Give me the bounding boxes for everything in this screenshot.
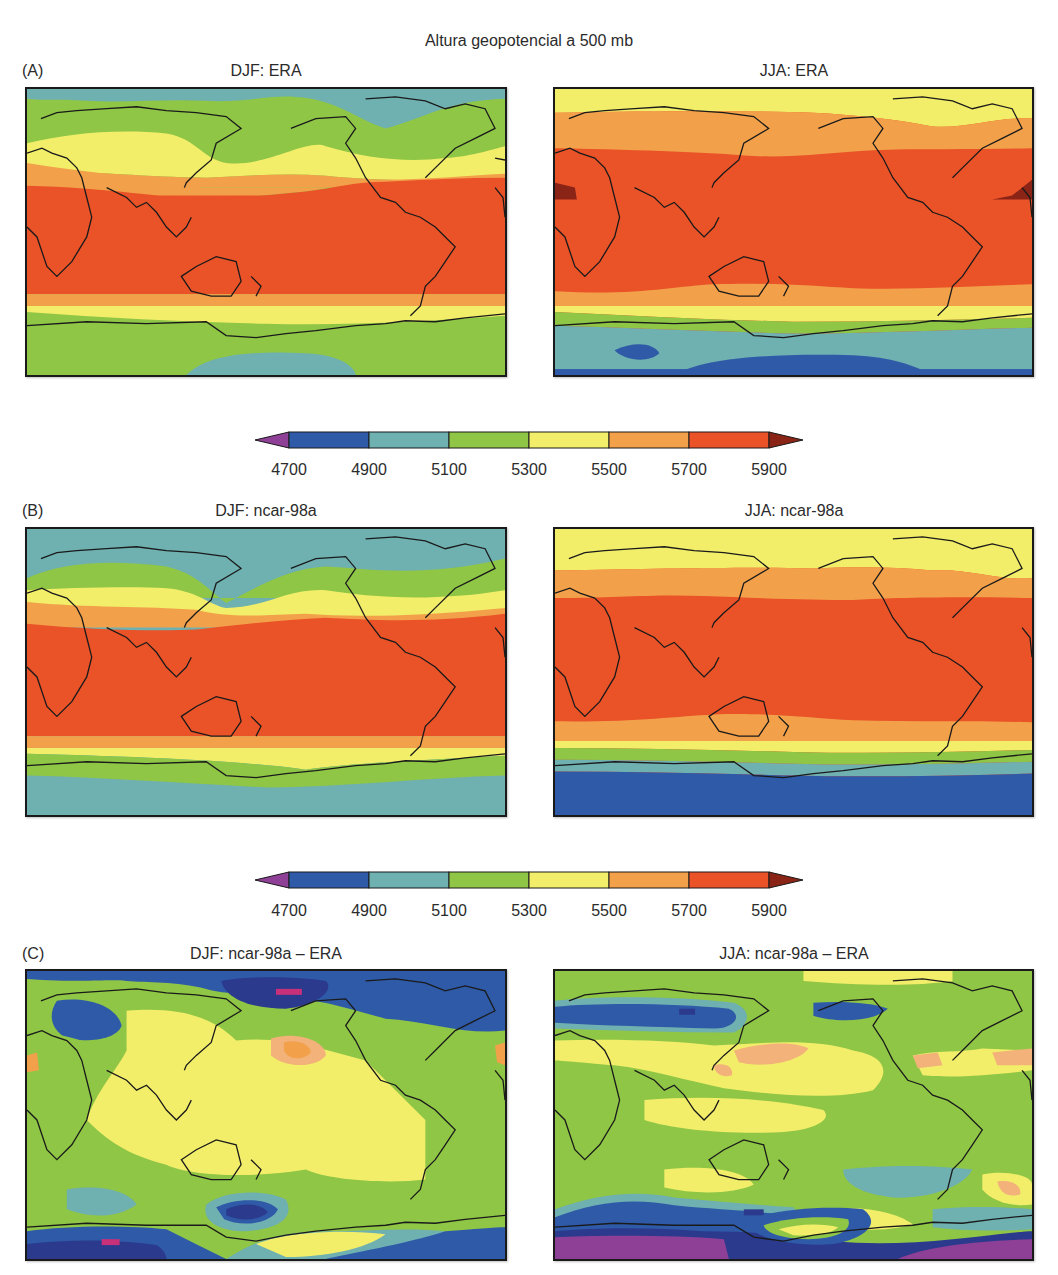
- tick-label: 4700: [271, 902, 307, 920]
- tick-label: 5500: [591, 902, 627, 920]
- tick-label: 5100: [431, 902, 467, 920]
- map-djf-diff: [25, 969, 507, 1261]
- tick-label: 5500: [591, 461, 627, 479]
- panel-title-b-right: JJA: ncar-98a: [553, 502, 1035, 520]
- tick-label: 4700: [271, 461, 307, 479]
- tick-label: 5100: [431, 461, 467, 479]
- figure-title: Altura geopotencial a 500 mb: [0, 32, 1058, 50]
- tick-label: 5700: [671, 902, 707, 920]
- tick-label: 4900: [351, 902, 387, 920]
- panel-title-a-right: JJA: ERA: [553, 62, 1035, 80]
- tick-label: 5300: [511, 461, 547, 479]
- panel-title-c-left: DJF: ncar-98a – ERA: [25, 945, 507, 963]
- panel-title-b-left: DJF: ncar-98a: [25, 502, 507, 520]
- colorbar-1-ticks: 4700 4900 5100 5300 5500 5700 5900: [255, 461, 805, 481]
- panel-title-a-left: DJF: ERA: [25, 62, 507, 80]
- panel-title-c-right: JJA: ncar-98a – ERA: [553, 945, 1035, 963]
- tick-label: 5700: [671, 461, 707, 479]
- colorbar-2: [255, 871, 805, 889]
- map-jja-diff: [553, 969, 1034, 1261]
- tick-label: 5300: [511, 902, 547, 920]
- map-djf-era: [25, 87, 507, 377]
- map-djf-ncar: [25, 527, 507, 817]
- colorbar-1: [255, 431, 805, 449]
- tick-label: 4900: [351, 461, 387, 479]
- tick-label: 5900: [751, 902, 787, 920]
- tick-label: 5900: [751, 461, 787, 479]
- colorbar-2-ticks: 4700 4900 5100 5300 5500 5700 5900: [255, 902, 805, 922]
- map-jja-ncar: [553, 527, 1034, 817]
- map-jja-era: [553, 87, 1034, 377]
